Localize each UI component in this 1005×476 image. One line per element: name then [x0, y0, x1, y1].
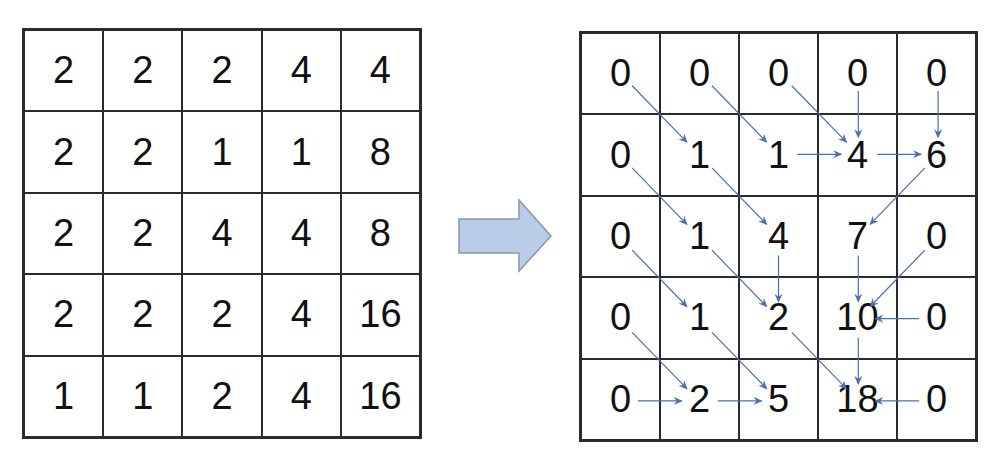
- grid-cell: 5: [739, 359, 818, 440]
- grid-cell: 0: [897, 196, 976, 277]
- grid-cell: 0: [897, 33, 976, 114]
- input-grid: 222442211822448222416112416: [22, 28, 422, 439]
- grid-cell: 0: [581, 359, 660, 440]
- grid-cell: 4: [182, 193, 261, 274]
- grid-cell: 2: [182, 356, 261, 437]
- output-grid: 000000114601470012100025180: [579, 31, 978, 442]
- grid-cell: 2: [182, 274, 261, 355]
- grid-cell: 4: [262, 193, 341, 274]
- grid-cell: 4: [739, 196, 818, 277]
- grid-cell: 18: [818, 359, 897, 440]
- grid-cell: 4: [818, 114, 897, 195]
- grid-cell: 4: [262, 274, 341, 355]
- grid-cell: 0: [897, 277, 976, 358]
- grid-cell: 2: [24, 274, 103, 355]
- grid-cell: 1: [24, 356, 103, 437]
- grid-cell: 0: [739, 33, 818, 114]
- grid-cell: 0: [818, 33, 897, 114]
- grid-cell: 4: [341, 30, 420, 111]
- grid-cell: 2: [24, 193, 103, 274]
- grid-cell: 2: [103, 30, 182, 111]
- grid-cell: 1: [660, 196, 739, 277]
- grid-cell: 8: [341, 111, 420, 192]
- grid-cell: 0: [581, 114, 660, 195]
- grid-cell: 2: [103, 274, 182, 355]
- grid-cell: 2: [24, 30, 103, 111]
- grid-cell: 1: [103, 356, 182, 437]
- grid-cell: 10: [818, 277, 897, 358]
- grid-cell: 0: [581, 196, 660, 277]
- grid-cell: 1: [660, 114, 739, 195]
- grid-cell: 0: [581, 277, 660, 358]
- grid-cell: 6: [897, 114, 976, 195]
- grid-cell: 2: [103, 193, 182, 274]
- grid-cell: 1: [262, 111, 341, 192]
- right-arrow-icon: [459, 200, 551, 271]
- grid-cell: 2: [103, 111, 182, 192]
- grid-cell: 2: [739, 277, 818, 358]
- grid-cell: 0: [897, 359, 976, 440]
- grid-cell: 4: [262, 356, 341, 437]
- grid-cell: 2: [660, 359, 739, 440]
- grid-cell: 16: [341, 274, 420, 355]
- grid-cell: 2: [24, 111, 103, 192]
- grid-cell: 1: [739, 114, 818, 195]
- grid-cell: 1: [182, 111, 261, 192]
- grid-cell: 7: [818, 196, 897, 277]
- grid-cell: 1: [660, 277, 739, 358]
- grid-cell: 8: [341, 193, 420, 274]
- grid-cell: 4: [262, 30, 341, 111]
- grid-cell: 2: [182, 30, 261, 111]
- grid-cell: 0: [581, 33, 660, 114]
- grid-cell: 16: [341, 356, 420, 437]
- grid-cell: 0: [660, 33, 739, 114]
